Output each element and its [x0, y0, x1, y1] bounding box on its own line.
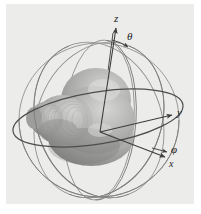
phi-arc-arrow — [152, 148, 167, 152]
orbital-diagram-canvas — [0, 0, 201, 214]
z-axis-label: z — [114, 13, 118, 24]
y-axis-label: y — [177, 107, 182, 118]
theta-angle-label: θ — [127, 31, 132, 42]
x-axis-label: x — [169, 159, 173, 169]
phi-angle-label: φ — [171, 144, 177, 155]
orbital-figure: z θ y φ x — [0, 0, 201, 214]
probability-density-surface — [26, 68, 135, 166]
